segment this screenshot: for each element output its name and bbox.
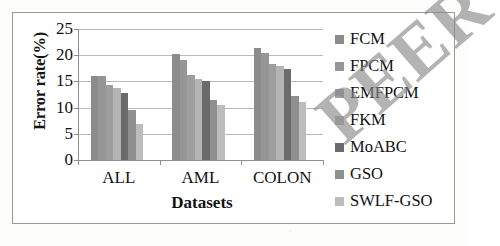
bar-moabc-aml	[202, 81, 210, 160]
gridline	[78, 29, 323, 30]
legend-item-fkm: FKM	[335, 108, 386, 132]
y-tick-mark	[74, 108, 79, 109]
legend-label: SWLF-GSO	[350, 193, 433, 210]
bar-swlf-gso-aml	[217, 105, 225, 160]
y-tick-label: 15	[33, 72, 73, 89]
legend-item-fpcm: FPCM	[335, 54, 394, 78]
legend-label: EMFPCM	[350, 85, 419, 102]
legend-label: FKM	[350, 112, 386, 129]
bar-fcm-colon	[254, 48, 262, 160]
chart-legend: FCMFPCMEMFPCMFKMMoABCGSOSWLF-GSO	[335, 27, 453, 217]
y-tick-mark	[74, 29, 79, 30]
y-tick-label: 10	[33, 99, 73, 116]
bar-fkm-colon	[276, 66, 284, 160]
legend-item-swlf-gso: SWLF-GSO	[335, 189, 433, 213]
legend-label: GSO	[350, 166, 383, 183]
x-tick-label-all: ALL	[78, 168, 160, 188]
bar-fcm-aml	[172, 54, 180, 160]
y-tick-mark	[74, 134, 79, 135]
bar-swlf-gso-colon	[299, 102, 307, 160]
bar-gso-colon	[291, 96, 299, 160]
plot-area	[78, 29, 323, 160]
y-tick-label: 0	[33, 151, 73, 168]
bar-gso-aml	[210, 100, 218, 160]
x-axis-tick-labels: ALLAMLCOLON	[78, 168, 328, 192]
legend-label: FPCM	[350, 58, 394, 75]
legend-swatch-icon	[335, 35, 344, 44]
legend-item-gso: GSO	[335, 162, 383, 186]
bar-fkm-all	[113, 88, 121, 160]
legend-swatch-icon	[335, 116, 344, 125]
bar-fkm-aml	[195, 79, 203, 160]
y-tick-mark	[74, 55, 79, 56]
y-tick-label: 25	[33, 20, 73, 37]
legend-item-fcm: FCM	[335, 27, 385, 51]
bar-moabc-all	[121, 93, 129, 160]
legend-label: MoABC	[350, 139, 407, 156]
bar-emfpcm-colon	[269, 64, 277, 160]
x-axis-title: Datasets	[78, 193, 326, 213]
legend-swatch-icon	[335, 143, 344, 152]
bar-swlf-gso-all	[136, 124, 144, 160]
bar-moabc-colon	[284, 69, 292, 160]
bar-fpcm-aml	[180, 60, 188, 160]
legend-label: FCM	[350, 31, 385, 48]
y-axis-line	[78, 29, 79, 161]
bar-fpcm-all	[98, 76, 106, 160]
y-tick-label: 20	[33, 46, 73, 63]
chart-plot-frame: Error rate(%) 0510152025 ALLAMLCOLON Dat…	[12, 12, 455, 224]
legend-swatch-icon	[335, 197, 344, 206]
legend-item-emfpcm: EMFPCM	[335, 81, 419, 105]
x-tick-label-aml: AML	[160, 168, 242, 188]
bar-gso-all	[128, 110, 136, 160]
bar-fpcm-colon	[261, 53, 269, 160]
bar-emfpcm-all	[106, 85, 114, 160]
legend-swatch-icon	[335, 170, 344, 179]
x-tick-label-colon: COLON	[241, 168, 323, 188]
x-axis-line	[78, 160, 323, 161]
legend-swatch-icon	[335, 89, 344, 98]
x-tick-mark	[323, 160, 324, 165]
bar-fcm-all	[91, 76, 99, 160]
bar-emfpcm-aml	[187, 75, 195, 160]
y-tick-label: 5	[33, 125, 73, 142]
y-tick-mark	[74, 81, 79, 82]
legend-swatch-icon	[335, 62, 344, 71]
legend-item-moabc: MoABC	[335, 135, 407, 159]
y-axis-tick-labels: 0510152025	[29, 29, 73, 161]
gridline	[78, 55, 323, 56]
